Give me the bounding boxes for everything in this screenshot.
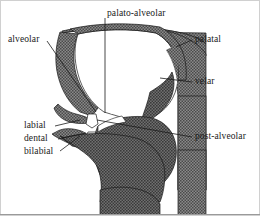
label-dental: dental [24,133,48,143]
label-velar: velar [195,76,215,86]
label-palato-alveolar: palato-alveolar [107,8,165,18]
diagram-canvas [0,0,260,216]
vocal-tract-diagram: palato-alveolar alveolar palatal velar l… [0,0,260,216]
label-post-alveolar: post-alveolar [195,131,246,141]
label-palatal: palatal [195,34,221,44]
label-bilabial: bilabial [24,146,53,156]
pharynx-column-lower [178,150,206,216]
label-alveolar: alveolar [8,34,39,44]
label-labial: labial [24,120,46,130]
